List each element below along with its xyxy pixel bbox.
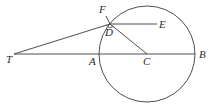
point-label-T: T <box>6 53 13 65</box>
point-label-A: A <box>88 55 96 67</box>
point-label-D: D <box>104 26 113 38</box>
radius-DC <box>110 24 147 54</box>
geometry-figure: TACBDEF <box>0 0 212 104</box>
tangent-TD <box>14 24 110 54</box>
point-label-E: E <box>158 18 166 30</box>
segment-DF <box>106 16 110 24</box>
point-label-C: C <box>143 55 151 67</box>
diagram-canvas: TACBDEF <box>0 0 212 104</box>
point-label-F: F <box>98 3 106 15</box>
point-label-B: B <box>199 48 206 60</box>
